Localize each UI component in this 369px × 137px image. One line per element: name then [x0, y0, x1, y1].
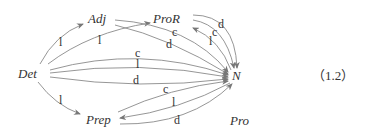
- edge-label: d: [174, 113, 180, 127]
- edge-label: c: [212, 25, 217, 39]
- edge-label: c: [172, 25, 177, 39]
- node-n: N: [231, 68, 242, 83]
- edge-label: l: [172, 95, 176, 109]
- equation-number: （1.2）: [312, 68, 354, 83]
- edge-label: l: [59, 35, 63, 49]
- edge-pror-n-d: [193, 15, 237, 68]
- node-pror: ProR: [152, 11, 180, 26]
- edge-det-n-d: [50, 77, 228, 84]
- diagram-canvas: l l c d d c l c l d l c l d Det Adj ProR…: [0, 0, 369, 137]
- edge-label: c: [163, 82, 168, 96]
- edge-label: d: [218, 17, 224, 31]
- node-det: Det: [17, 66, 37, 81]
- edge-label: d: [133, 73, 139, 87]
- node-prep: Prep: [85, 112, 111, 127]
- node-adj: Adj: [87, 11, 106, 26]
- edge-label: d: [166, 37, 172, 51]
- node-pro: Pro: [229, 113, 250, 128]
